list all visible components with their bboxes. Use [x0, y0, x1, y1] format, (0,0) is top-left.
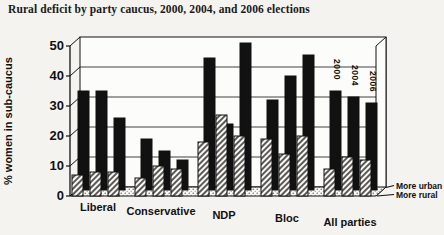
y-tick-label-30: 30: [34, 98, 64, 113]
bar-more-rural-bloc-2004: [279, 154, 290, 196]
legend-label-more-rural: More rural: [396, 190, 438, 200]
bar-more-rural-all-parties-2006: [360, 160, 371, 196]
bar-more-rural-ndp-2006: [234, 136, 245, 196]
bar-more-rural-all-parties-2000: [324, 169, 335, 196]
y-tick-label-40: 40: [34, 68, 64, 83]
y-tick-label-50: 50: [34, 38, 64, 53]
bar-more-rural-liberal-2000: [72, 175, 83, 196]
bar-more-rural-all-parties-2004: [342, 157, 353, 196]
bar-more-rural-conservative-2006: [171, 169, 182, 196]
bar-more-rural-ndp-2000: [198, 142, 209, 196]
y-tick-label-10: 10: [34, 158, 64, 173]
chart-canvas: [0, 0, 444, 235]
year-label-2004: 2004: [347, 65, 360, 97]
bar-more-rural-conservative-2004: [153, 166, 164, 196]
bar-more-rural-liberal-2004: [90, 172, 101, 196]
bar-more-rural-conservative-2000: [135, 178, 146, 196]
year-label-2000: 2000: [329, 59, 342, 91]
bar-more-rural-bloc-2000: [261, 139, 272, 196]
bar-more-rural-bloc-2006: [297, 136, 308, 196]
bar-more-rural-liberal-2006: [108, 172, 119, 196]
x-category-label-all-parties: All parties: [305, 216, 395, 228]
legend-tick-more-rural: [377, 195, 394, 197]
y-tick-connector-40: [70, 67, 80, 76]
y-tick-connector-50: [70, 37, 80, 46]
y-tick-label-20: 20: [34, 128, 64, 143]
bar-more-rural-ndp-2004: [216, 115, 227, 196]
year-label-2006: 2006: [365, 71, 378, 103]
